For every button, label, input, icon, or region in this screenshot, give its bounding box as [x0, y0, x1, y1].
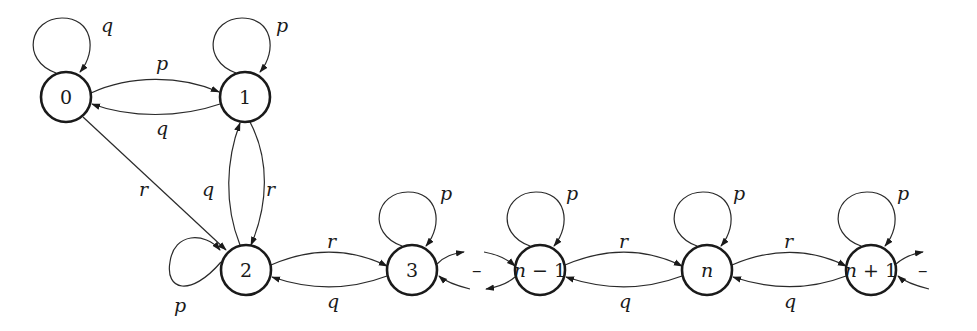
label-loop-1: p [276, 14, 288, 36]
label-nm1-to-n: r [619, 230, 630, 252]
self-loop-2 [169, 238, 221, 286]
edge-2-to-1 [229, 123, 240, 245]
edge-0-to-1 [91, 79, 219, 93]
self-loop-0 [33, 18, 90, 73]
edge-nm1-in [484, 252, 515, 266]
label-np1-to-n: q [784, 290, 796, 312]
self-loop-n [674, 192, 731, 246]
edge-3-to-2 [272, 276, 387, 287]
self-loop-3 [379, 192, 436, 246]
self-loop-1 [213, 18, 270, 73]
label-loop-3: p [440, 182, 452, 204]
continuation-dash-left: – [472, 259, 482, 281]
label-2-to-3: r [327, 230, 338, 252]
label-3-to-2: q [327, 290, 339, 312]
edge-n-to-nm1 [566, 276, 682, 287]
node-2-label: 2 [240, 259, 252, 281]
label-loop-2: p [174, 294, 186, 316]
node-3-label: 3 [406, 259, 418, 281]
continuation-dash-right: – [918, 259, 928, 281]
edge-n-to-np1 [732, 252, 846, 266]
label-1-to-2: r [266, 178, 277, 200]
node-0-label: 0 [60, 86, 72, 108]
edge-1-to-2 [250, 122, 264, 245]
label-2-to-1: q [202, 178, 214, 200]
edge-1-to-0 [92, 104, 220, 115]
label-loop-n: p [733, 182, 745, 204]
label-0-to-1: p [156, 52, 168, 74]
node-n-plus-1: n + 1 [845, 245, 897, 295]
node-0: 0 [41, 72, 91, 122]
node-n-plus-1-label: n + 1 [845, 259, 897, 281]
edge-np1-to-n [733, 276, 846, 287]
self-loop-n+1 [838, 192, 895, 246]
self-loop-n-1 [507, 192, 564, 246]
node-n-minus-1-label: n − 1 [514, 259, 566, 281]
node-3: 3 [387, 245, 437, 295]
state-diagram: 0 1 2 3 n − 1 n n + 1 q p q p r q r p r … [0, 0, 977, 331]
label-loop-n-plus-1: p [897, 182, 909, 204]
edge-nm1-to-n [565, 252, 682, 266]
edge-nm1-out [486, 277, 515, 289]
node-2: 2 [221, 245, 271, 295]
node-n-label: n [701, 259, 713, 281]
node-n: n [682, 245, 732, 295]
edge-2-to-3 [271, 252, 387, 266]
edge-3-in [439, 276, 470, 289]
node-n-minus-1: n − 1 [514, 245, 566, 295]
label-n-to-nm1: q [619, 290, 631, 312]
label-loop-n-minus-1: p [566, 182, 578, 204]
node-1-label: 1 [239, 86, 251, 108]
edge-3-out [437, 252, 464, 264]
node-1: 1 [220, 72, 270, 122]
label-0-to-2: r [139, 178, 150, 200]
label-1-to-0: q [156, 117, 168, 139]
label-loop-0: q [101, 14, 113, 36]
label-n-to-np1: r [784, 230, 795, 252]
